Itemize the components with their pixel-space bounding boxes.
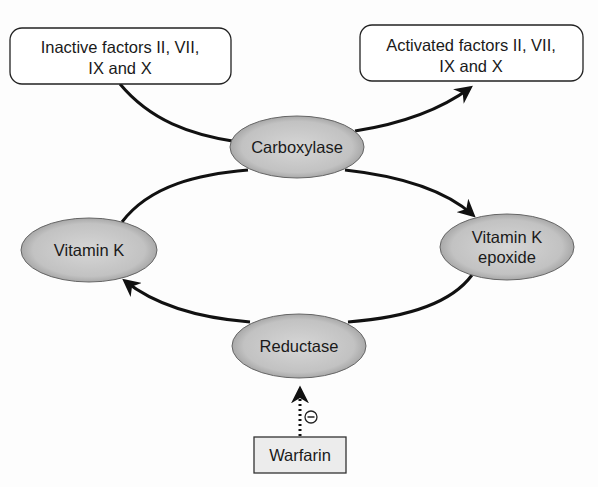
activated-factors-line2: IX and X <box>439 57 502 75</box>
inactive-factors-node: Inactive factors II, VII, IX and X <box>10 28 231 84</box>
inhibition-icon <box>305 411 317 423</box>
diagram-canvas: Inactive factors II, VII, IX and X Activ… <box>0 0 598 487</box>
vitamin-k-cycle-diagram: Inactive factors II, VII, IX and X Activ… <box>0 0 598 487</box>
activated-factors-node: Activated factors II, VII, IX and X <box>360 25 583 81</box>
warfarin-node: Warfarin <box>254 437 346 473</box>
reductase-node: Reductase <box>232 314 366 378</box>
vitamin-k-epoxide-node: Vitamin K epoxide <box>440 214 574 280</box>
edge-carboxylase-to-activated <box>355 88 470 131</box>
edge-reductase-to-vitamin-k <box>125 281 250 322</box>
edge-epoxide-to-reductase <box>348 275 472 322</box>
inactive-factors-line2: IX and X <box>88 59 151 77</box>
inactive-factors-line1: Inactive factors II, VII, <box>41 38 200 56</box>
carboxylase-label: Carboxylase <box>251 138 343 156</box>
vitamin-k-epoxide-line1: Vitamin K <box>472 228 542 246</box>
warfarin-label: Warfarin <box>269 446 331 464</box>
edge-inactive-to-carboxylase <box>120 84 238 142</box>
vitamin-k-epoxide-line2: epoxide <box>478 248 536 266</box>
reductase-label: Reductase <box>260 337 339 355</box>
vitamin-k-label: Vitamin K <box>54 241 124 259</box>
vitamin-k-node: Vitamin K <box>21 218 157 282</box>
edge-vitamin-k-to-carboxylase <box>122 170 248 222</box>
edge-carboxylase-to-epoxide <box>345 170 473 215</box>
activated-factors-line1: Activated factors II, VII, <box>386 36 556 54</box>
carboxylase-node: Carboxylase <box>230 116 364 178</box>
